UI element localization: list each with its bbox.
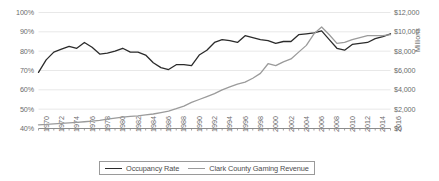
- data-series: [39, 27, 391, 125]
- gridlines: [39, 13, 391, 110]
- legend-entry[interactable]: Clark County Gaming Revenue: [188, 164, 309, 173]
- axis-lines: [39, 129, 391, 131]
- legend-line-swatch: [188, 168, 205, 169]
- legend-entry[interactable]: Occupancy Rate: [105, 164, 179, 173]
- chart-container: 100%90%80%70%60%50%40% $12,000$10,000$8,…: [0, 0, 439, 181]
- legend: Occupancy RateClark County Gaming Revenu…: [99, 161, 315, 175]
- legend-label: Clark County Gaming Revenue: [209, 164, 309, 173]
- series-line: [39, 27, 391, 125]
- plot-area: [0, 0, 439, 181]
- legend-label: Occupancy Rate: [126, 164, 179, 173]
- legend-line-swatch: [105, 168, 122, 169]
